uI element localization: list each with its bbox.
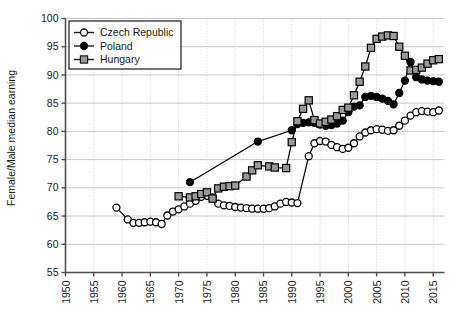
x-axis-tick-labels: 1950195519601965197019751980198519901995… xyxy=(60,280,440,304)
x-tick-label: 1965 xyxy=(144,280,156,304)
chart-canvas: 556065707580859095100 195019551960196519… xyxy=(0,0,460,318)
series-hungary xyxy=(175,32,442,202)
data-point-marker-square xyxy=(288,139,295,146)
data-point-marker-filled-circle xyxy=(254,138,261,145)
data-point-marker-open-circle xyxy=(158,220,165,227)
chart-figure: Female/Male median earning 5560657075808… xyxy=(0,0,460,318)
data-point-marker-square xyxy=(209,195,216,202)
y-tick-label: 100 xyxy=(41,12,59,24)
data-point-marker-open-circle xyxy=(294,200,301,207)
x-tick-label: 1960 xyxy=(116,280,128,304)
y-tick-label: 70 xyxy=(47,181,59,193)
data-point-marker-square xyxy=(401,52,408,59)
data-point-marker-square xyxy=(356,78,363,85)
y-tick-label: 75 xyxy=(47,153,59,165)
data-point-marker-square xyxy=(299,105,306,112)
data-point-marker-square xyxy=(283,164,290,171)
legend-label: Hungary xyxy=(100,53,140,65)
x-tick-label: 1975 xyxy=(201,280,213,304)
chart-legend: Czech RepublicPolandHungary xyxy=(69,21,181,69)
y-axis-tick-labels: 556065707580859095100 xyxy=(41,12,59,278)
data-point-marker-open-circle xyxy=(350,140,357,147)
data-point-marker-filled-circle xyxy=(81,43,88,50)
data-point-marker-square xyxy=(175,193,182,200)
data-point-marker-square xyxy=(271,164,278,171)
data-point-marker-square xyxy=(350,92,357,99)
x-tick-label: 1990 xyxy=(286,280,298,304)
data-point-marker-square xyxy=(390,32,397,39)
x-tick-label: 1950 xyxy=(60,280,72,304)
data-point-marker-square xyxy=(367,44,374,51)
x-tick-label: 1980 xyxy=(229,280,241,304)
data-point-marker-square xyxy=(80,56,87,63)
y-tick-label: 65 xyxy=(47,210,59,222)
data-point-marker-open-circle xyxy=(305,153,312,160)
data-point-marker-square xyxy=(345,104,352,111)
y-tick-label: 55 xyxy=(47,266,59,278)
x-tick-label: 2010 xyxy=(399,280,411,304)
y-tick-label: 95 xyxy=(47,40,59,52)
x-tick-label: 1955 xyxy=(88,280,100,304)
data-point-marker-filled-circle xyxy=(390,101,397,108)
x-tick-label: 1985 xyxy=(257,280,269,304)
data-point-marker-square xyxy=(305,97,312,104)
data-point-marker-open-circle xyxy=(113,204,120,211)
x-tick-label: 1970 xyxy=(173,280,185,304)
x-tick-label: 2000 xyxy=(342,280,354,304)
data-point-marker-filled-circle xyxy=(435,78,442,85)
data-point-marker-square xyxy=(362,63,369,70)
x-tick-label: 2015 xyxy=(427,280,439,304)
y-tick-label: 85 xyxy=(47,97,59,109)
x-tick-label: 1995 xyxy=(314,280,326,304)
series-line xyxy=(179,35,439,198)
data-point-marker-square xyxy=(232,182,239,189)
y-tick-label: 90 xyxy=(47,69,59,81)
y-tick-label: 60 xyxy=(47,238,59,250)
data-point-marker-filled-circle xyxy=(396,90,403,97)
data-point-marker-filled-circle xyxy=(356,102,363,109)
legend-label: Poland xyxy=(100,40,133,52)
data-point-marker-square xyxy=(435,56,442,63)
data-point-marker-filled-circle xyxy=(186,179,193,186)
data-point-marker-filled-circle xyxy=(401,77,408,84)
data-point-marker-open-circle xyxy=(81,29,88,36)
data-point-marker-square xyxy=(294,118,301,125)
data-point-marker-open-circle xyxy=(435,107,442,114)
y-tick-label: 80 xyxy=(47,125,59,137)
data-point-marker-square xyxy=(396,43,403,50)
data-point-marker-square xyxy=(254,162,261,169)
x-tick-label: 2005 xyxy=(371,280,383,304)
legend-label: Czech Republic xyxy=(100,26,174,38)
